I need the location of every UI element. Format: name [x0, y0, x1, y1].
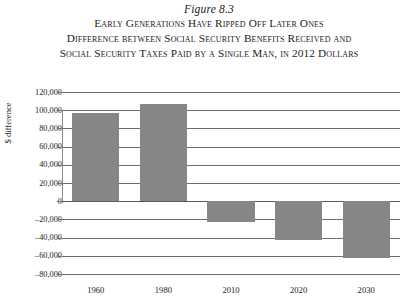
y-tick-mark — [57, 256, 61, 257]
y-tick-mark — [57, 219, 61, 220]
gridline — [62, 110, 400, 111]
x-tick-label-1960: 1960 — [62, 285, 130, 295]
y-tick-label: –60,000 — [8, 251, 62, 260]
y-tick-mark — [57, 238, 61, 239]
y-tick-mark — [57, 183, 61, 184]
y-tick-label: –80,000 — [8, 270, 62, 279]
figure-title-block: Figure 8.3 Early Generations Have Ripped… — [0, 2, 418, 61]
bar-2020 — [275, 201, 322, 240]
bar-1980 — [140, 104, 187, 201]
y-tick-mark — [57, 128, 61, 129]
bar-2010 — [207, 201, 254, 222]
figure-title-line-3: Social Security Taxes Paid by a Single M… — [0, 46, 418, 61]
y-tick-mark — [57, 165, 61, 166]
y-tick-label: 80,000 — [8, 124, 62, 133]
x-tick-label-2030: 2030 — [332, 285, 400, 295]
y-tick-mark — [57, 201, 61, 202]
y-tick-label: –40,000 — [8, 233, 62, 242]
x-tick-label-2020: 2020 — [265, 285, 333, 295]
y-tick-label: 60,000 — [8, 142, 62, 151]
y-tick-label: 100,000 — [8, 106, 62, 115]
gridline — [62, 92, 400, 93]
bar-2030 — [343, 201, 390, 257]
bar-1960 — [72, 113, 119, 201]
y-axis-ticks: 120,000100,00080,00060,00040,00020,0000–… — [0, 0, 62, 307]
x-tick-label-1980: 1980 — [130, 285, 198, 295]
figure-title-line-1: Early Generations Have Ripped Off Later … — [0, 16, 418, 31]
figure-number: Figure 8.3 — [0, 2, 418, 16]
x-tick-label-2010: 2010 — [197, 285, 265, 295]
y-tick-label: 40,000 — [8, 160, 62, 169]
gridline — [62, 274, 400, 275]
y-tick-mark — [57, 147, 61, 148]
plot-area — [62, 92, 400, 274]
y-tick-mark — [57, 274, 61, 275]
y-tick-label: 120,000 — [8, 88, 62, 97]
figure-container: Figure 8.3 Early Generations Have Ripped… — [0, 0, 418, 307]
y-tick-mark — [57, 110, 61, 111]
y-tick-label: –20,000 — [8, 215, 62, 224]
y-tick-label: 0 — [8, 197, 62, 206]
y-tick-mark — [57, 92, 61, 93]
figure-title-line-2: Difference between Social Security Benef… — [0, 31, 418, 46]
y-tick-label: 20,000 — [8, 179, 62, 188]
